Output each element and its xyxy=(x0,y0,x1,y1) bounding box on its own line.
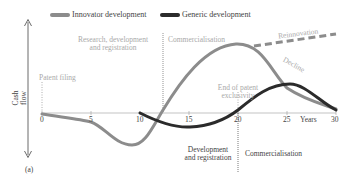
research-label: Research, development and registration xyxy=(68,36,158,52)
patent-filing-label: Patent filing xyxy=(39,74,76,82)
x-tick-30: 30 xyxy=(331,116,339,124)
x-tick-0: 0 xyxy=(40,116,44,124)
legend-generic-swatch xyxy=(160,13,180,17)
x-tick-15: 15 xyxy=(185,116,193,124)
commercialisation-top-label: Commercialisation xyxy=(168,36,225,44)
legend-generic-label: Generic development xyxy=(182,11,251,19)
x-tick-25: 25 xyxy=(283,116,291,124)
commercialisation-bottom-label: Commercialisation xyxy=(245,150,302,158)
x-tick-10: 10 xyxy=(136,116,144,124)
x-tick-20: 20 xyxy=(234,116,242,124)
x-tick-5: 5 xyxy=(89,116,93,124)
legend-innovator-swatch xyxy=(50,13,70,17)
legend-innovator-label: Innovator development xyxy=(72,11,146,19)
panel-label: (a) xyxy=(25,166,33,174)
dev-reg-label: Development and registration xyxy=(180,146,236,162)
y-axis-label: Cash flow xyxy=(12,84,28,112)
end-exclusivity-label: End of patent exclusivity xyxy=(210,84,266,100)
x-unit-label: Years xyxy=(300,116,317,124)
